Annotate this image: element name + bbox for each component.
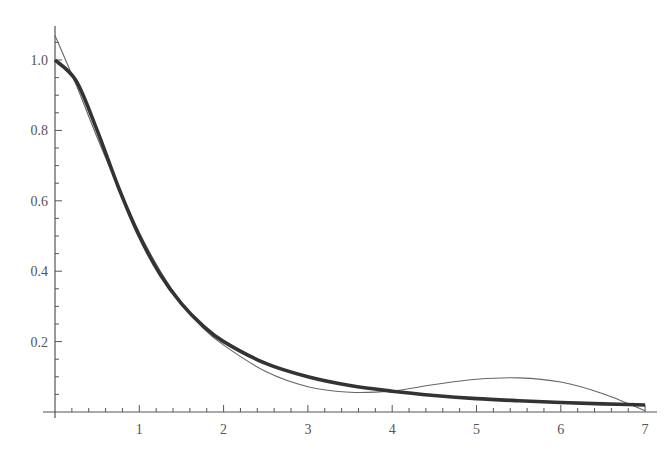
y-tick-label: 0.6	[31, 194, 49, 209]
x-tick-label: 2	[220, 422, 227, 437]
y-tick-label: 0.8	[31, 123, 49, 138]
plot-curves	[55, 35, 645, 410]
y-tick-label: 0.2	[31, 335, 49, 350]
y-tick-label: 0.4	[31, 264, 49, 279]
x-tick-label: 5	[473, 422, 480, 437]
x-tick-label: 6	[557, 422, 564, 437]
x-tick-label: 3	[304, 422, 311, 437]
x-tick-label: 4	[389, 422, 396, 437]
axes: 12345670.20.40.60.81.0	[31, 26, 658, 437]
x-tick-label: 7	[642, 422, 649, 437]
thin-curve	[55, 35, 645, 410]
thick-curve	[55, 60, 645, 405]
x-tick-label: 1	[136, 422, 143, 437]
y-tick-label: 1.0	[31, 53, 49, 68]
chart: 12345670.20.40.60.81.0	[0, 0, 671, 454]
